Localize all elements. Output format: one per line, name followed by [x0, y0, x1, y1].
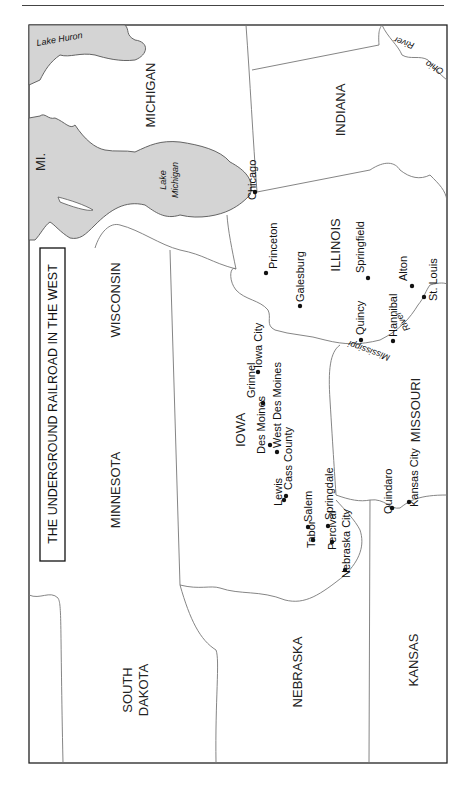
state-label-indiana: INDIANA: [333, 83, 348, 136]
minnesota-south-dakota-border: [29, 595, 63, 763]
city-label: Kansas City: [408, 448, 420, 507]
state-label-nebraska: NEBRASKA: [290, 636, 305, 707]
city-label: Chicago: [246, 160, 258, 200]
city-label: Grinnel: [245, 363, 257, 398]
lake-michigan-shape: [29, 115, 251, 240]
river-label-ohio-river-1: River: [391, 34, 415, 51]
city-label: Springfield: [354, 221, 366, 273]
city-quincy: Quincy: [354, 300, 366, 342]
city-label: Nebraska City: [340, 508, 352, 578]
city-label: St. Louis: [427, 258, 439, 301]
wisconsin-minnesota-border: [95, 224, 236, 269]
city-percival: Percival: [326, 511, 338, 550]
state-label-michigan-abbr: MI.: [33, 153, 48, 171]
water-label-lake-michigan-1: Lake: [158, 170, 168, 190]
city-label: Hannibal: [387, 294, 399, 337]
city-quindaro: Quindaro: [382, 469, 394, 514]
city-alton: Alton: [397, 256, 414, 288]
map-title: THE UNDERGROUND RAILROAD IN THE WEST: [46, 264, 60, 544]
city-hannibal: Hannibal: [387, 294, 399, 344]
state-label-michigan: MICHIGAN: [143, 63, 158, 128]
city-princeton: Princeton: [264, 223, 279, 276]
city-label: Lewis: [272, 477, 284, 506]
state-label-south-dakota-1: SOUTH: [120, 667, 135, 713]
city-label: Alton: [397, 256, 409, 281]
state-label-wisconsin: WISCONSIN: [108, 262, 123, 337]
city-label: Quindaro: [382, 469, 394, 514]
map-title-box: THE UNDERGROUND RAILROAD IN THE WEST: [40, 248, 65, 561]
city-dot-icon: [275, 450, 279, 454]
city-label: Tabor: [305, 520, 317, 548]
city-label: Salem: [302, 491, 314, 522]
city-dot-icon: [284, 494, 288, 498]
city-label: Quincy: [354, 300, 366, 335]
indiana-north-border: [252, 25, 382, 70]
city-label: Iowa City: [252, 322, 264, 368]
map-frame: [29, 25, 447, 763]
city-dot-icon: [268, 443, 272, 447]
city-nebraska-city: Nebraska City: [340, 508, 352, 578]
city-kansas-city: Kansas City: [407, 448, 420, 507]
indiana-illinois-border: [257, 163, 447, 200]
state-label-illinois: ILLINOIS: [328, 218, 343, 272]
water-label-lake-michigan-2: Michigan: [170, 162, 180, 198]
city-label: Des Moines: [255, 395, 267, 454]
state-label-minnesota: MINNESOTA: [108, 452, 123, 529]
state-label-kansas: KANSAS: [406, 633, 421, 686]
city-dot-icon: [298, 304, 302, 308]
city-tabor: Tabor: [305, 520, 317, 548]
river-label-ohio-river-2: Ohio: [424, 59, 445, 77]
city-dot-icon: [422, 295, 426, 299]
state-label-south-dakota-2: DAKOTA: [136, 663, 151, 716]
city-label: Galesburg: [294, 251, 306, 302]
lake-huron-shape: [29, 25, 146, 85]
city-dot-icon: [359, 338, 363, 342]
underground-railroad-map: THE UNDERGROUND RAILROAD IN THE WEST MIC…: [0, 0, 473, 791]
state-label-iowa: IOWA: [233, 413, 248, 448]
city-springfield: Springfield: [354, 221, 370, 280]
city-dot-icon: [391, 339, 395, 343]
city-des-moines: Des Moines: [255, 395, 272, 454]
iowa-minnesota-border: [170, 250, 180, 585]
illinois-wisconsin-border: [227, 215, 236, 269]
nebraska-kansas-border: [369, 500, 370, 763]
south-dakota-nebraska-border: [180, 585, 218, 763]
state-label-missouri: MISSOURI: [408, 378, 423, 442]
city-label: Princeton: [267, 223, 279, 269]
city-dot-icon: [366, 276, 370, 280]
city-chicago: Chicago: [246, 160, 258, 200]
city-dot-icon: [410, 284, 414, 288]
city-dot-icon: [264, 271, 268, 275]
city-galesburg: Galesburg: [294, 251, 306, 308]
city-label: Percival: [326, 511, 338, 550]
